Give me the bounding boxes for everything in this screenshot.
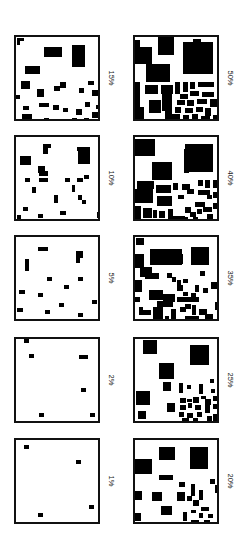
filled-block: [179, 383, 183, 393]
filled-block: [39, 178, 48, 182]
filled-block: [23, 106, 29, 110]
filled-block: [158, 37, 174, 55]
filled-block: [38, 513, 43, 517]
filled-block: [202, 92, 214, 97]
filled-block: [213, 404, 217, 409]
filled-block: [213, 414, 217, 421]
filled-block: [204, 520, 210, 522]
filled-block: [191, 484, 195, 496]
filled-block: [44, 47, 62, 57]
filled-block: [201, 116, 210, 119]
filled-block: [135, 513, 141, 521]
filled-block: [175, 107, 181, 113]
filled-block: [78, 277, 83, 281]
coverage-label: 35%: [225, 263, 235, 293]
filled-block: [22, 114, 32, 119]
filled-block: [203, 288, 208, 293]
filled-block: [17, 38, 20, 45]
filled-block: [161, 85, 173, 94]
filled-block: [161, 506, 172, 515]
filled-block: [205, 180, 210, 188]
filled-block: [190, 345, 209, 365]
filled-block: [82, 200, 86, 204]
filled-block: [21, 81, 30, 89]
filled-block: [180, 307, 186, 312]
filled-block: [195, 405, 201, 410]
coverage-label: 50%: [225, 63, 235, 93]
filled-block: [198, 82, 214, 87]
filled-block: [165, 316, 169, 319]
filled-block: [187, 385, 191, 389]
filled-block: [39, 171, 48, 176]
filled-block: [90, 413, 95, 417]
filled-block: [210, 379, 214, 383]
filled-block: [79, 355, 88, 359]
filled-block: [44, 118, 49, 119]
filled-block: [183, 42, 213, 74]
filled-block: [76, 251, 80, 263]
filled-block: [193, 418, 198, 421]
filled-block: [159, 447, 175, 460]
filled-block: [192, 305, 196, 315]
filled-block: [76, 460, 81, 464]
filled-block: [190, 447, 208, 469]
filled-block: [84, 118, 89, 119]
coverage-panel-p25: [133, 337, 219, 423]
filled-block: [187, 100, 194, 106]
filled-block: [79, 88, 84, 93]
filled-block: [152, 492, 162, 501]
filled-block: [177, 285, 183, 291]
filled-block: [179, 412, 184, 417]
filled-block: [171, 114, 180, 119]
filled-block: [149, 100, 161, 113]
coverage-label: 40%: [225, 163, 235, 193]
filled-block: [163, 382, 171, 391]
filled-block: [201, 507, 209, 511]
filled-block: [76, 109, 82, 115]
filled-block: [197, 99, 207, 104]
coverage-panel-p20: [133, 438, 219, 524]
filled-block: [196, 107, 203, 112]
filled-block: [88, 81, 94, 85]
filled-block: [47, 277, 52, 281]
filled-block: [53, 105, 59, 110]
filled-block: [185, 144, 213, 172]
filled-block: [207, 416, 212, 421]
filled-block: [72, 118, 77, 119]
filled-block: [143, 310, 151, 315]
filled-block: [77, 147, 81, 151]
filled-block: [193, 397, 199, 403]
filled-block: [135, 254, 144, 268]
filled-block: [143, 208, 152, 218]
filled-block: [135, 491, 142, 500]
filled-block: [215, 302, 217, 310]
filled-block: [39, 103, 49, 107]
filled-block: [180, 398, 186, 403]
filled-block: [63, 108, 68, 112]
filled-block: [172, 277, 176, 282]
filled-block: [149, 290, 163, 300]
filled-block: [48, 144, 51, 148]
filled-block: [205, 314, 213, 319]
filled-block: [207, 214, 213, 219]
filled-block: [65, 178, 70, 182]
filled-block: [177, 492, 185, 501]
filled-block: [213, 396, 217, 401]
filled-block: [136, 391, 150, 405]
filled-block: [167, 403, 175, 412]
filled-block: [210, 99, 217, 107]
filled-block: [159, 475, 173, 480]
filled-block: [38, 293, 43, 297]
filled-block: [183, 279, 188, 283]
filled-block: [180, 94, 188, 99]
filled-block: [197, 412, 202, 417]
filled-block: [84, 175, 89, 179]
coverage-label: 25%: [225, 365, 235, 395]
filled-block: [38, 247, 48, 251]
filled-block: [213, 180, 217, 188]
filled-block: [203, 207, 212, 212]
filled-block: [198, 180, 203, 186]
filled-block: [183, 82, 188, 92]
filled-block: [16, 95, 20, 99]
filled-block: [135, 47, 152, 64]
